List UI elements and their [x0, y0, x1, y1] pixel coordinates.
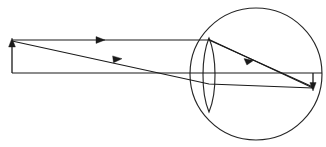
oblique-ray-arrowhead [113, 56, 122, 63]
diagram-canvas [0, 0, 326, 147]
parallel-ray-arrowhead [96, 37, 105, 44]
oblique-ray [12, 41, 313, 88]
parallel-ray [12, 40, 313, 87]
crystalline-lens [203, 38, 215, 112]
eyeball-circle [190, 8, 322, 140]
eye-ray-diagram-figure [0, 0, 326, 147]
central-ray [208, 39, 313, 88]
object-arrow-arrowhead [9, 38, 16, 47]
